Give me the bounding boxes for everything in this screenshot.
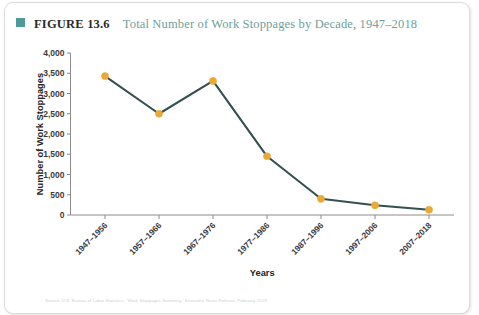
x-axis-tick-label: 1947–1956 (73, 220, 110, 257)
source-note: Source: U.S. Bureau of Labor Statistics,… (45, 298, 268, 303)
data-point-marker (425, 206, 432, 213)
data-series-line (105, 76, 429, 210)
y-axis-title: Number of Work Stoppages (35, 73, 45, 195)
y-axis-tick-label: 1,500 (43, 149, 65, 159)
line-chart: 05001,0001,5002,0002,5003,0003,5004,0001… (5, 3, 471, 315)
x-axis-tick-label: 2007–2018 (397, 220, 434, 257)
y-axis-tick-label: 3,000 (43, 89, 65, 99)
y-axis-tick-label: 2,500 (43, 109, 65, 119)
data-point-marker (101, 72, 108, 79)
x-axis-tick-label: 1967–1976 (181, 220, 218, 257)
data-point-marker (317, 195, 324, 202)
x-axis-tick-label: 1977–1986 (235, 220, 272, 257)
x-axis-title: Years (250, 268, 275, 278)
x-axis-tick-label: 1987–1996 (289, 220, 326, 257)
y-axis-tick-label: 4,000 (43, 48, 65, 58)
data-point-marker (209, 77, 216, 84)
data-point-marker (263, 153, 270, 160)
y-axis-tick-label: 1,000 (43, 170, 65, 180)
data-point-marker (155, 110, 162, 117)
x-axis-tick-label: 1997–2006 (343, 220, 380, 257)
y-axis-tick-label: 3,500 (43, 68, 65, 78)
y-axis-tick-label: 500 (50, 190, 64, 200)
x-axis-tick-label: 1957–1966 (127, 220, 164, 257)
data-point-marker (371, 202, 378, 209)
y-axis-tick-label: 0 (60, 210, 65, 220)
y-axis-tick-label: 2,000 (43, 129, 65, 139)
chart-plot-area: 05001,0001,5002,0002,5003,0003,5004,0001… (5, 3, 471, 315)
figure-card: FIGURE 13.6 Total Number of Work Stoppag… (4, 2, 470, 314)
